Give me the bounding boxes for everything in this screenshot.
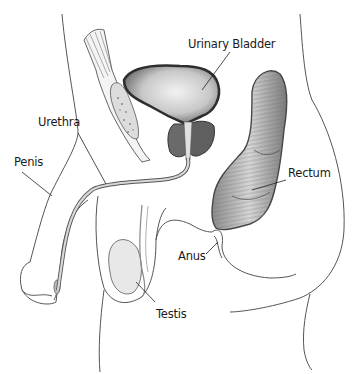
label-rectum: Rectum xyxy=(288,168,331,180)
label-anus: Anus xyxy=(178,251,206,263)
leader-urethra xyxy=(78,133,106,184)
testis xyxy=(109,205,148,298)
rectum xyxy=(212,71,287,230)
leader-anus xyxy=(206,242,218,254)
label-urinary-bladder: Urinary Bladder xyxy=(188,39,275,51)
penis xyxy=(22,200,88,304)
leader-penis xyxy=(22,172,52,196)
label-penis: Penis xyxy=(14,157,43,169)
anatomy-diagram: Urinary Bladder Urethra Penis Rectum Anu… xyxy=(0,0,356,374)
label-urethra: Urethra xyxy=(38,117,80,129)
label-testis: Testis xyxy=(156,309,187,321)
